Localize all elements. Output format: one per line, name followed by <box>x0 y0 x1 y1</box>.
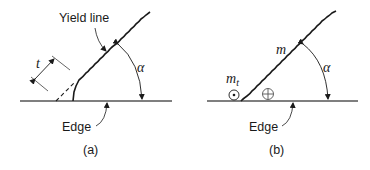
dot-circle-icon <box>229 90 239 100</box>
yield-line-pointer-arrow <box>95 28 106 51</box>
panel-a: t Yield line α Edge (a) <box>20 11 172 157</box>
edge-pointer-arrow <box>96 103 107 126</box>
caption-a: (a) <box>83 143 98 157</box>
panel-b: m mt α Edge (b) <box>207 11 358 157</box>
thickness-label: t <box>36 56 41 71</box>
plus-circle-icon <box>263 89 274 100</box>
edge-label: Edge <box>62 120 91 134</box>
edge-pointer-arrow <box>282 103 293 126</box>
yield-line <box>241 11 336 101</box>
angle-label: α <box>323 60 331 75</box>
dashed-extension-line <box>56 83 74 101</box>
t-extension-line-1 <box>52 56 70 70</box>
edge-label: Edge <box>249 120 278 134</box>
yield-line <box>73 12 150 101</box>
yield-line-label: Yield line <box>59 11 109 25</box>
angle-label: α <box>137 60 145 75</box>
moment-label: m <box>276 42 286 57</box>
twist-moment-label: mt <box>226 71 239 88</box>
t-extension-line-2 <box>31 77 48 91</box>
caption-b: (b) <box>269 143 284 157</box>
